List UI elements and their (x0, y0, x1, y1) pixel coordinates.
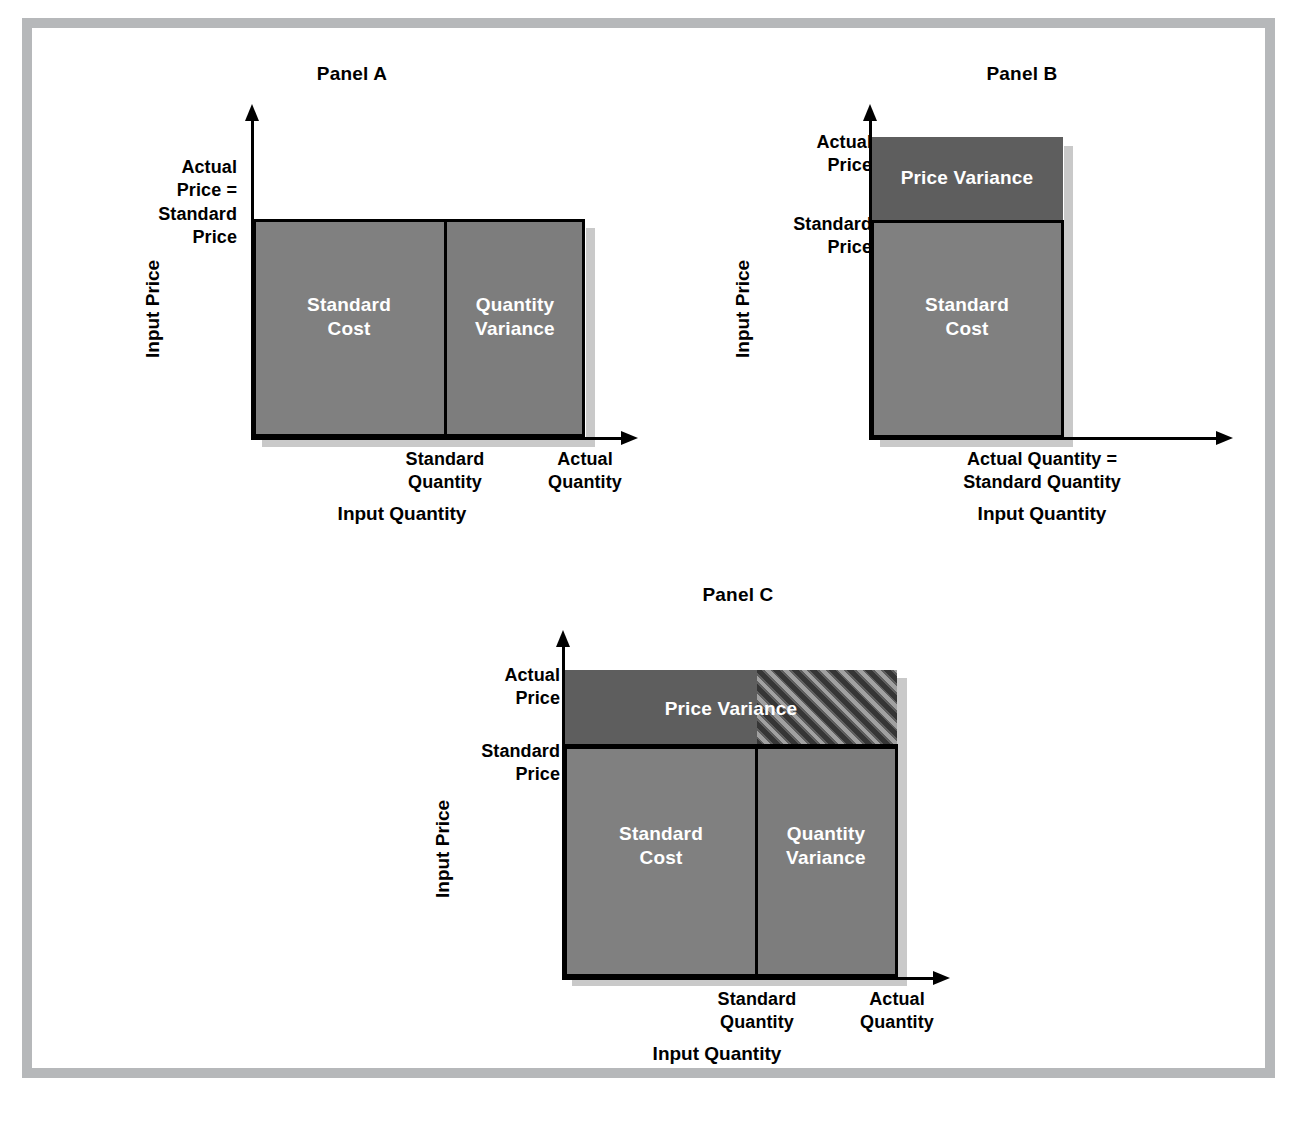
figure-canvas: Panel A Actual Price = Standard Price St… (0, 0, 1308, 1122)
panel-c-ytick-standard-price: Standard Price (448, 740, 560, 787)
panel-c-label-standard-cost: Standard Cost (582, 822, 740, 871)
panel-b-x-axis-arrow (1216, 431, 1233, 445)
panel-a-y-axis-arrow (245, 104, 259, 121)
panel-b-y-axis-arrow (863, 104, 877, 121)
panel-c-x-axis (562, 977, 934, 980)
panel-a-title: Panel A (292, 63, 412, 85)
panel-a-x-axis-title: Input Quantity (307, 503, 497, 525)
panel-c: Panel C Actual Price Standard Price Pric… (332, 558, 1032, 1078)
panel-b-ytick-standard-price: Standard Price (760, 213, 872, 260)
panel-b-x-axis (869, 437, 1217, 440)
panel-a-ytick-actual-equals-standard-price: Actual Price = Standard Price (122, 156, 237, 250)
panel-a-block-shadow-right (586, 228, 595, 446)
panel-b: Panel B Actual Price Standard Price Pric… (652, 28, 1272, 528)
panel-c-label-price-variance: Price Variance (568, 697, 894, 721)
panel-b-y-axis-title: Input Price (732, 260, 754, 358)
panel-b-y-axis (869, 120, 872, 440)
panel-a-x-axis-arrow (621, 431, 638, 445)
panel-b-block-shadow-right (1064, 146, 1073, 446)
panel-b-title: Panel B (962, 63, 1082, 85)
panel-b-ytick-actual-price: Actual Price (772, 131, 872, 178)
panel-b-x-axis-title: Input Quantity (947, 503, 1137, 525)
panel-c-x-axis-title: Input Quantity (622, 1043, 812, 1065)
panel-c-xtick-actual-quantity: Actual Quantity (834, 988, 960, 1035)
panel-a-y-axis (251, 120, 254, 440)
figure-frame: Panel A Actual Price = Standard Price St… (22, 18, 1275, 1078)
panel-c-y-axis (562, 646, 565, 980)
panel-c-standard-price-line (564, 744, 898, 747)
panel-c-block-shadow-right (897, 678, 907, 978)
panel-a-label-standard-cost: Standard Cost (273, 293, 425, 342)
panel-c-title: Panel C (678, 584, 798, 606)
panel-a-y-axis-title: Input Price (142, 260, 164, 358)
panel-c-xtick-standard-quantity: Standard Quantity (694, 988, 820, 1035)
panel-c-x-axis-arrow (933, 971, 950, 985)
panel-c-y-axis-title: Input Price (432, 800, 454, 898)
panel-a: Panel A Actual Price = Standard Price St… (32, 28, 672, 528)
panel-b-xtick-actual-equals-standard-quantity: Actual Quantity = Standard Quantity (922, 448, 1162, 495)
panel-c-label-quantity-variance: Quantity Variance (758, 822, 894, 871)
panel-a-xtick-actual-quantity: Actual Quantity (522, 448, 648, 495)
panel-c-y-axis-arrow (556, 630, 570, 647)
panel-b-label-price-variance: Price Variance (874, 166, 1060, 190)
panel-a-label-quantity-variance: Quantity Variance (447, 293, 583, 342)
panel-b-label-standard-cost: Standard Cost (874, 293, 1060, 342)
panel-a-xtick-standard-quantity: Standard Quantity (382, 448, 508, 495)
panel-c-ytick-actual-price: Actual Price (460, 664, 560, 711)
panel-a-x-axis (251, 437, 622, 440)
